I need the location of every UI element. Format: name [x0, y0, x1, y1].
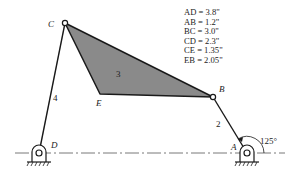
dimension-eb: EB = 2.05" [184, 56, 223, 66]
dimension-list: AD = 3.8" AB = 1.2" BC = 3.0" CD = 2.3" … [184, 8, 223, 66]
pivot-b [210, 94, 215, 99]
link-label-2: 2 [216, 119, 221, 129]
label-a: A [230, 142, 237, 152]
ground-pivot-a [235, 145, 259, 166]
link-label-3: 3 [116, 69, 121, 79]
pivot-c [62, 20, 67, 25]
angle-label: 125° [260, 136, 278, 146]
label-b: B [219, 84, 225, 94]
label-e: E [95, 98, 102, 108]
link-4 [39, 23, 65, 153]
linkage-diagram: C B E D A 3 4 2 125° [0, 0, 295, 177]
label-c: C [48, 19, 55, 29]
link-label-4: 4 [53, 93, 58, 103]
ground-pivot-d [27, 145, 51, 166]
label-d: D [50, 140, 58, 150]
